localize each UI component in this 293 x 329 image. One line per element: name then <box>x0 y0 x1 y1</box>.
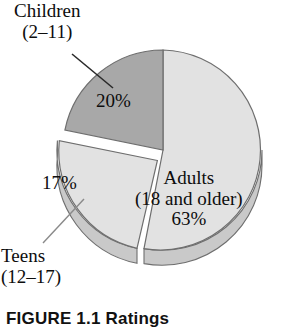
adults-slice-label: Adults (18 and older) 63% <box>135 168 243 230</box>
adults-slice-percent: 63% <box>135 209 243 230</box>
children-slice-label: Children (2–11) <box>14 1 81 42</box>
children-slice-percent: 20% <box>96 91 131 112</box>
teens-slice-percent: 17% <box>42 173 77 194</box>
children-slice-name: Children <box>14 1 81 22</box>
children-slice-range: (2–11) <box>14 22 81 43</box>
adults-slice-range: (18 and older) <box>135 189 243 210</box>
adults-slice-name: Adults <box>135 168 243 189</box>
teens-slice-label: Teens (12–17) <box>1 246 61 287</box>
teens-slice-name: Teens <box>1 246 61 267</box>
teens-slice-range: (12–17) <box>1 267 61 288</box>
figure-caption: FIGURE 1.1 Ratings <box>6 309 169 329</box>
